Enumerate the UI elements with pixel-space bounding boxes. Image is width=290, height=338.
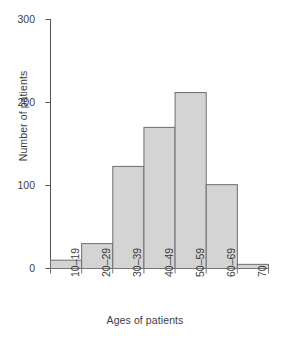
bars-group [51, 93, 269, 269]
x-tick-label: 70 [257, 265, 268, 277]
bar [175, 93, 206, 269]
x-tick-label: 30–39 [132, 247, 143, 276]
x-tick-label: 60–69 [226, 247, 237, 276]
x-tick-label: 20–29 [101, 247, 112, 276]
y-tick-marks [46, 20, 51, 269]
x-axis-title: Ages of patients [0, 314, 290, 326]
x-tick-label: 40–49 [164, 247, 175, 276]
x-tick-label: 10–19 [70, 247, 81, 276]
plot-area [0, 0, 290, 338]
x-tick-label: 50–59 [195, 247, 206, 276]
histogram-chart: Number of patients 300 200 100 0 10–1920… [0, 0, 290, 338]
